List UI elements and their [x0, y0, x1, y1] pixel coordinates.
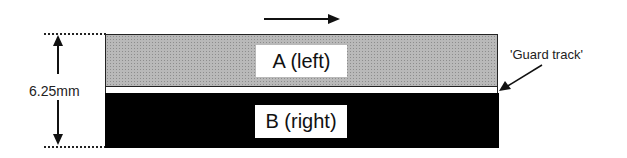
callout-arrow-icon	[496, 62, 546, 94]
direction-arrow-icon	[262, 12, 342, 26]
dimension-label: 6.25mm	[29, 83, 80, 99]
track-b-label: B (right)	[255, 105, 347, 138]
guard-track-label: 'Guard track'	[510, 47, 583, 62]
track-a-label: A (left)	[256, 45, 347, 77]
